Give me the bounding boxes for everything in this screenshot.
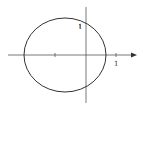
y-tick-label: 1 [78,23,82,31]
x-tick-label: 1 [114,60,118,68]
x-axis-arrow-icon [131,53,137,58]
diagram-canvas: 1 1 [0,0,147,162]
